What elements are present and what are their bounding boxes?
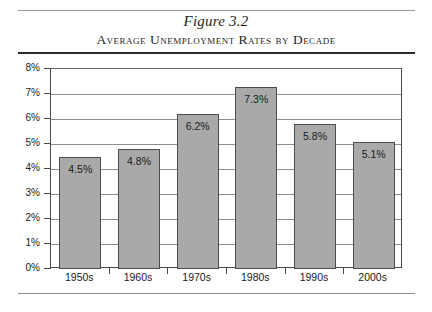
y-axis-label: 7% [10, 88, 40, 98]
gridline [51, 144, 401, 145]
gridline [51, 169, 401, 170]
bar-value-label: 5.8% [294, 131, 336, 142]
x-axis-category-label: 1980s [226, 272, 285, 283]
x-axis-category-label: 1960s [109, 272, 168, 283]
bar [294, 124, 336, 269]
header-rule-top [18, 10, 415, 11]
bar [235, 87, 277, 270]
y-axis-tick [44, 268, 51, 269]
x-axis-category-label: 1970s [167, 272, 226, 283]
bar-value-label: 4.8% [118, 156, 160, 167]
bar-value-label: 7.3% [235, 94, 277, 105]
bar [353, 142, 395, 270]
y-axis-label: 0% [10, 263, 40, 273]
bar [177, 114, 219, 269]
y-axis-label: 8% [10, 63, 40, 73]
y-axis-label: 1% [10, 238, 40, 248]
figure-number: Figure 3.2 [0, 13, 432, 30]
y-axis-tick [44, 143, 51, 144]
y-axis-label: 5% [10, 138, 40, 148]
plot-area: 4.5%4.8%6.2%7.3%5.8%5.1% [50, 68, 402, 268]
bar-value-label: 4.5% [59, 164, 101, 175]
y-axis-tick [44, 218, 51, 219]
y-axis-tick [44, 193, 51, 194]
x-axis-tick [109, 268, 110, 274]
x-axis-category-label: 1990s [285, 272, 344, 283]
gridline [51, 94, 401, 95]
y-axis-tick [44, 243, 51, 244]
gridline [51, 219, 401, 220]
bar [118, 149, 160, 269]
footer-rule [18, 293, 415, 294]
x-axis-tick [226, 268, 227, 274]
x-axis-category-label: 1950s [50, 272, 109, 283]
y-axis-tick [44, 93, 51, 94]
gridline [51, 244, 401, 245]
x-axis-tick [343, 268, 344, 274]
gridline [51, 194, 401, 195]
figure-title: Average Unemployment Rates by Decade [0, 32, 432, 48]
y-axis-label: 4% [10, 163, 40, 173]
y-axis-label: 6% [10, 113, 40, 123]
bar-value-label: 5.1% [353, 149, 395, 160]
y-axis-label: 3% [10, 188, 40, 198]
x-axis-tick [285, 268, 286, 274]
gridline [51, 119, 401, 120]
y-axis-tick [44, 68, 51, 69]
y-axis-tick [44, 118, 51, 119]
figure-container: Figure 3.2 Average Unemployment Rates by… [0, 0, 432, 312]
header-rule-bottom [18, 52, 415, 54]
bar-value-label: 6.2% [177, 121, 219, 132]
x-axis-tick [167, 268, 168, 274]
y-axis-tick [44, 168, 51, 169]
x-axis-category-label: 2000s [343, 272, 402, 283]
y-axis-label: 2% [10, 213, 40, 223]
